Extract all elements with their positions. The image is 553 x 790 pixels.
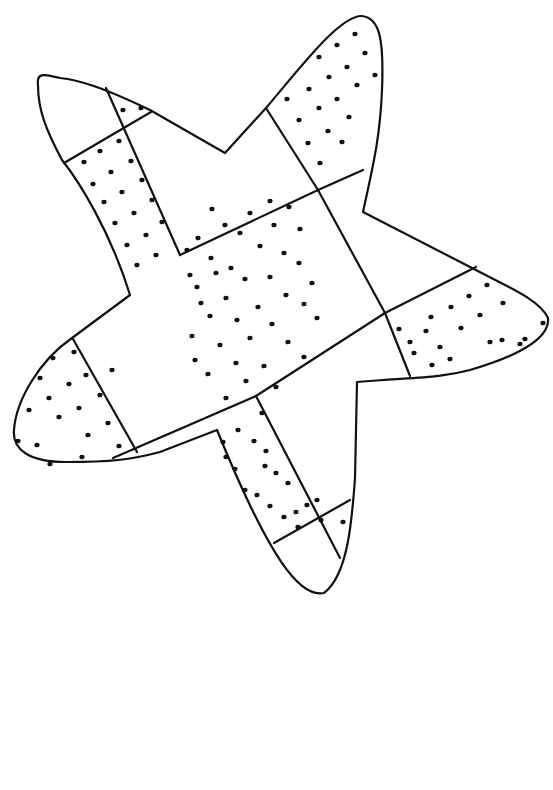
pattern-dot: [522, 337, 527, 342]
pattern-dot: [326, 75, 331, 80]
pattern-dot: [234, 318, 239, 323]
pattern-dot: [428, 315, 433, 320]
pattern-dot: [97, 393, 102, 398]
pattern-dot: [222, 223, 227, 228]
pattern-dot: [301, 355, 306, 360]
pattern-dot: [119, 190, 124, 195]
pattern-dot: [76, 406, 81, 411]
pattern-dot: [228, 266, 233, 271]
pattern-dot: [339, 140, 344, 145]
pattern-dot: [81, 160, 86, 165]
pattern-dot: [83, 373, 88, 378]
pattern-dot: [297, 227, 302, 232]
pattern-dot: [314, 316, 319, 321]
pattern-dot: [116, 444, 121, 449]
pattern-dot: [269, 322, 274, 327]
pattern-dot: [448, 305, 453, 310]
pattern-dot: [242, 277, 247, 282]
pattern-dot: [281, 515, 286, 520]
pattern-dot: [254, 493, 259, 498]
pattern-dot: [316, 55, 321, 60]
pattern-dot: [304, 503, 309, 508]
pattern-dot: [263, 449, 268, 454]
pattern-dot: [108, 170, 113, 175]
pattern-dot: [500, 301, 505, 306]
pattern-dot: [437, 345, 442, 350]
pattern-dot: [301, 302, 306, 307]
pattern-dot: [284, 97, 289, 102]
pattern-dot: [267, 199, 272, 204]
pattern-dot: [192, 358, 197, 363]
pattern-dot: [477, 313, 482, 318]
pattern-dot: [124, 243, 129, 248]
pattern-dot: [411, 351, 416, 356]
pattern-dot: [105, 421, 110, 426]
pattern-dot: [257, 244, 262, 249]
pattern-dot: [217, 343, 222, 348]
pattern-dot: [271, 223, 276, 228]
pattern-dot: [255, 305, 260, 310]
pattern-dot: [354, 83, 359, 88]
pattern-dot: [273, 471, 278, 476]
pattern-dot: [97, 149, 102, 154]
pattern-dot: [317, 161, 322, 166]
pattern-dot: [66, 382, 71, 387]
pattern-dot: [247, 336, 252, 341]
pattern-dot: [189, 334, 194, 339]
coloring-page-canvas: [0, 0, 553, 790]
pattern-dot: [46, 396, 51, 401]
pattern-dot: [325, 129, 330, 134]
pattern-dot: [247, 211, 252, 216]
pattern-dot: [372, 73, 377, 78]
pattern-dot: [235, 428, 240, 433]
pattern-dot: [296, 261, 301, 266]
pattern-dot: [237, 231, 242, 236]
pattern-dot: [352, 32, 357, 37]
pattern-dot: [314, 498, 319, 503]
pattern-dot: [120, 108, 125, 113]
pattern-dot: [153, 253, 158, 258]
pattern-dot: [306, 87, 311, 92]
pattern-dot: [71, 350, 76, 355]
pattern-dot: [90, 182, 95, 187]
pattern-dot: [466, 294, 471, 299]
pattern-dot: [344, 65, 349, 70]
pattern-dot: [85, 433, 90, 438]
pattern-dot: [305, 141, 310, 146]
pattern-dot: [208, 256, 213, 261]
pattern-dot: [143, 233, 148, 238]
pattern-dot: [334, 97, 339, 102]
pattern-dot: [187, 273, 192, 278]
pattern-dot: [213, 271, 218, 276]
pattern-dot: [207, 314, 212, 319]
pattern-dot: [101, 200, 106, 205]
pattern-dot: [37, 376, 42, 381]
pattern-dot: [283, 293, 288, 298]
pattern-dot: [423, 329, 428, 334]
pattern-dot: [223, 296, 228, 301]
pattern-dot: [109, 368, 114, 373]
pattern-dot: [293, 510, 298, 515]
pattern-dot: [112, 221, 117, 226]
pattern-dot: [285, 481, 290, 486]
pattern-dot: [139, 178, 144, 183]
page-background: [0, 0, 553, 790]
pattern-dot: [194, 285, 199, 290]
pattern-dot: [487, 340, 492, 345]
pattern-dot: [309, 281, 314, 286]
pattern-dot: [396, 327, 401, 332]
pattern-dot: [447, 357, 452, 362]
pattern-dot: [79, 455, 84, 460]
pattern-dot: [209, 207, 214, 212]
pattern-dot: [134, 263, 139, 268]
pattern-dot: [251, 439, 256, 444]
pattern-dot: [262, 464, 267, 469]
pattern-dot: [340, 520, 345, 525]
pattern-dot: [131, 211, 136, 216]
pattern-dot: [429, 363, 434, 368]
pattern-dot: [407, 340, 412, 345]
pattern-dot: [362, 51, 367, 56]
pattern-dot: [296, 118, 301, 123]
pattern-dot: [56, 415, 61, 420]
pattern-dot: [195, 236, 200, 241]
